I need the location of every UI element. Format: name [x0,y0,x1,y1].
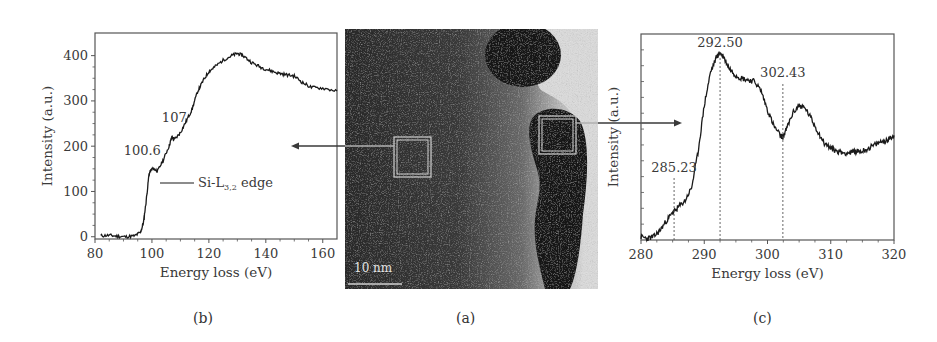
chart-c-carbon-edge: 280290300310320Energy loss (eV)Intensity… [600,0,937,300]
caption-c: (c) [753,310,772,326]
x-tick-label: 320 [882,247,907,262]
x-tick-label: 290 [692,247,717,262]
peak-label: 302.43 [760,65,806,80]
arrow-left-icon [291,143,299,150]
peak-label: 285.23 [651,160,697,175]
x-tick-label: 310 [818,247,843,262]
x-tick-label: 300 [755,247,780,262]
x-axis-label: Energy loss (eV) [711,265,823,281]
caption-a: (a) [456,310,475,326]
peak-label: 292.50 [697,35,743,50]
caption-b: (b) [193,310,213,326]
x-tick-label: 280 [629,247,654,262]
y-axis-label: Intensity (a.u.) [605,87,621,188]
